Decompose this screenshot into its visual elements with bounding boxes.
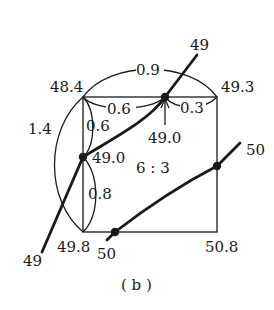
contour-line-50	[107, 143, 240, 240]
ratio-label: 6 : 3	[136, 159, 170, 177]
right-edge-point	[213, 162, 221, 170]
top-right-distance: 0.3	[180, 99, 204, 117]
left-arc-distance: 1.4	[28, 120, 52, 138]
corner-label-bottom-right: 50.8	[205, 238, 238, 256]
contour-50-end-label: 50	[246, 141, 265, 159]
figure-caption: ( b )	[121, 276, 152, 294]
top-left-distance: 0.6	[107, 100, 131, 118]
contour-49-end-label: 49	[190, 36, 209, 54]
bottom-edge-point	[111, 228, 119, 236]
corner-label-bottom-left: 49.8	[57, 238, 90, 256]
contour-50-start-label: 50	[97, 245, 116, 263]
left-edge-point	[79, 153, 87, 161]
left-lower-distance: 0.8	[88, 185, 112, 203]
top-arc-distance: 0.9	[136, 61, 160, 79]
top-edge-point	[161, 93, 169, 101]
corner-label-top-right: 49.3	[221, 78, 254, 96]
corner-label-top-left: 48.4	[50, 78, 83, 96]
contour-interpolation-diagram: 48.4 49.3 49.8 50.8 0.9 0.6 0.3 1.4 0.6 …	[0, 0, 274, 310]
contour-49-start-label: 49	[23, 252, 42, 270]
top-point-value: 49.0	[148, 129, 181, 147]
left-point-value: 49.0	[92, 149, 125, 167]
left-upper-distance: 0.6	[86, 117, 110, 135]
